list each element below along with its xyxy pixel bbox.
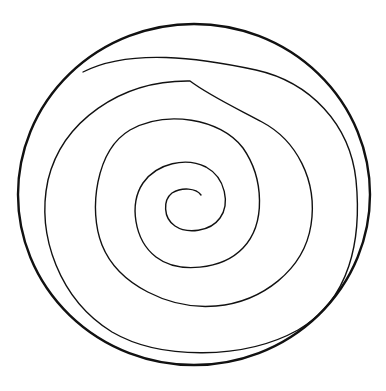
outer-circle (18, 24, 370, 365)
spiral-line (45, 57, 357, 352)
spiral-figure (0, 0, 386, 391)
spiral-drawing (0, 0, 386, 391)
